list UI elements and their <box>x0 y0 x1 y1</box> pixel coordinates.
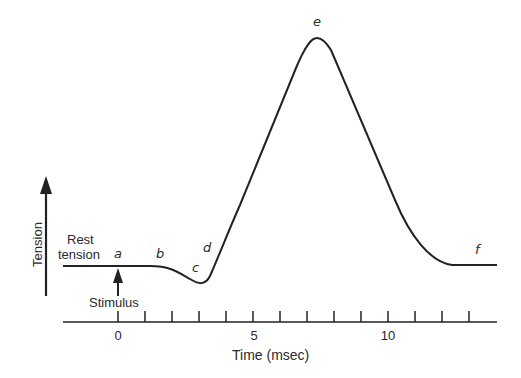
point-label-c: c <box>192 261 199 274</box>
stimulus-arrow-icon <box>113 268 123 283</box>
tick-label-5: 5 <box>250 328 257 343</box>
y-axis-label: Tension <box>31 215 44 275</box>
time-axis-ticks <box>118 311 469 322</box>
stimulus-label: Stimulus <box>89 296 139 309</box>
tension-curve <box>63 38 497 283</box>
tick-label-0: 0 <box>114 328 121 343</box>
point-label-f: f <box>475 243 480 256</box>
tick-label-10: 10 <box>381 328 395 343</box>
point-label-e: e <box>313 15 321 28</box>
tension-arrow-icon <box>40 176 52 194</box>
point-label-b: b <box>156 247 164 260</box>
point-label-d: d <box>203 241 211 254</box>
point-label-a: a <box>114 247 122 260</box>
rest-label-line2: tension <box>58 248 100 261</box>
twitch-diagram <box>0 0 521 378</box>
rest-label-line1: Rest <box>67 233 94 246</box>
x-axis-label: Time (msec) <box>232 348 309 362</box>
